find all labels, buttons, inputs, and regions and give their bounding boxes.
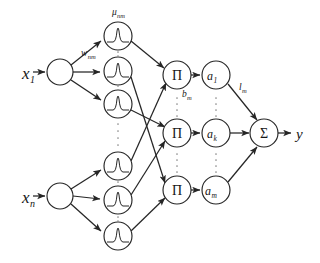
dots-norm-1 bbox=[215, 97, 217, 117]
output-label-y: y bbox=[294, 126, 303, 142]
dots-mf-b bbox=[117, 85, 119, 91]
norm-node-am[interactable]: am bbox=[202, 176, 230, 204]
dots-norm-2 bbox=[215, 153, 217, 173]
rule-node-prod2[interactable]: Π bbox=[163, 119, 191, 147]
membership-node-mfn2[interactable] bbox=[104, 186, 132, 214]
fuzzy-neural-network-diagram: Π Π Π a1 ak bbox=[0, 0, 320, 263]
sum-node-label: Σ bbox=[260, 126, 268, 141]
dots-prod-2 bbox=[176, 153, 178, 173]
norm-layer-nodes: a1 ak am bbox=[202, 61, 230, 204]
membership-node-circle bbox=[104, 152, 132, 180]
network-canvas: Π Π Π a1 ak bbox=[0, 0, 320, 263]
membership-node-mf12[interactable] bbox=[104, 57, 132, 85]
edges-inputn-to-membership bbox=[71, 170, 101, 231]
membership-node-mf11[interactable] bbox=[104, 22, 132, 50]
sum-node[interactable]: Σ bbox=[250, 119, 278, 147]
edge-inn-mfn3 bbox=[71, 204, 101, 231]
input-arrows bbox=[33, 72, 45, 196]
membership-node-circle bbox=[104, 22, 132, 50]
membership-node-circle bbox=[104, 186, 132, 214]
norm-node-ak[interactable]: ak bbox=[202, 119, 230, 147]
label-mu-nm: μnm bbox=[111, 7, 125, 19]
label-w-nm: wnm bbox=[81, 48, 96, 60]
input-label-x1: x1 bbox=[21, 64, 35, 85]
rule-layer-nodes: Π Π Π bbox=[163, 61, 191, 204]
edge-mfn3-prod3 bbox=[131, 198, 165, 231]
dots-mf-c bbox=[117, 181, 119, 187]
edge-in1-mf13 bbox=[71, 80, 101, 100]
rule-node-label: Π bbox=[172, 68, 182, 83]
dots-mf-a bbox=[117, 51, 119, 57]
input-node-x1[interactable] bbox=[47, 59, 73, 85]
edge-inn-mfn2 bbox=[73, 196, 100, 199]
input-node-xn[interactable] bbox=[47, 183, 73, 209]
edges-rule-to-norm bbox=[191, 75, 200, 190]
membership-node-mf13[interactable] bbox=[104, 90, 132, 118]
edges-membership-to-rule bbox=[131, 41, 166, 231]
membership-node-circle bbox=[104, 57, 132, 85]
edge-mf11-prod1 bbox=[131, 41, 164, 68]
input-label-xn: xn bbox=[21, 188, 35, 209]
membership-node-circle bbox=[104, 222, 132, 250]
label-l-m: lm bbox=[239, 82, 247, 94]
diagram-labels: x1 xn μnm wnm bm lm y bbox=[21, 7, 303, 209]
membership-node-circle bbox=[104, 90, 132, 118]
label-b-m: bm bbox=[182, 89, 192, 101]
rule-node-prod3[interactable]: Π bbox=[163, 176, 191, 204]
input-layer-nodes bbox=[47, 59, 73, 209]
membership-node-mfn3[interactable] bbox=[104, 222, 132, 250]
edge-inn-mfn1 bbox=[71, 170, 101, 189]
edge-am-sum bbox=[228, 147, 257, 182]
rule-node-label: Π bbox=[172, 183, 182, 198]
membership-node-mfn1[interactable] bbox=[104, 152, 132, 180]
rule-node-prod1[interactable]: Π bbox=[163, 61, 191, 89]
dots-prod-1 bbox=[176, 97, 178, 117]
dots-mf-mid bbox=[117, 123, 119, 146]
dots-mf-d bbox=[117, 216, 119, 222]
rule-node-label: Π bbox=[172, 126, 182, 141]
norm-node-a1[interactable]: a1 bbox=[202, 61, 230, 89]
